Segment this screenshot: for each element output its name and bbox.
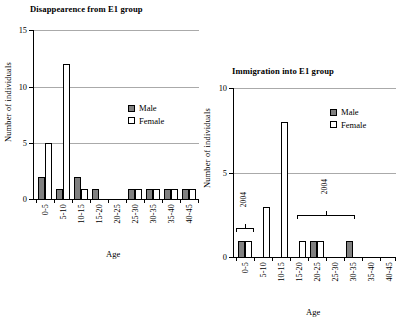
x-tick-label-40-45: 40-45 <box>185 204 194 224</box>
x-tick-label-20-25: 20-25 <box>113 204 122 224</box>
annotation-label-2: 2004 <box>320 179 329 194</box>
bar-female-10-15 <box>81 189 88 200</box>
x-tick-label-5-10: 5-10 <box>259 262 268 277</box>
legend-right: Male Female <box>330 108 366 133</box>
annotation-label-1: 2004 <box>239 192 248 207</box>
bar-female-20-25 <box>317 241 324 258</box>
bar-male-35-40 <box>164 189 171 200</box>
x-tick-8 <box>180 200 181 203</box>
legend-item-male: Male <box>128 104 164 113</box>
x-tick-5 <box>126 200 127 203</box>
legend-item-female: Female <box>128 117 164 126</box>
bar-male-30-35 <box>346 241 353 258</box>
legend-item-female: Female <box>330 121 366 130</box>
x-tick-label-40-45: 40-45 <box>385 262 394 282</box>
y-tick-label-5: 5 <box>11 139 27 148</box>
x-tick-label-15-20: 15-20 <box>95 204 104 224</box>
x-tick-4 <box>108 200 109 203</box>
bar-male-20-25 <box>310 241 317 258</box>
x-tick-6 <box>344 258 345 261</box>
legend-label-female: Female <box>341 121 366 130</box>
x-tick-3 <box>290 258 291 261</box>
y-tick-label-0: 0 <box>11 195 27 204</box>
x-tick-4 <box>308 258 309 261</box>
x-tick-label-0-5: 0-5 <box>241 262 250 273</box>
legend-label-male: Male <box>341 108 359 117</box>
gridline-5 <box>33 143 199 144</box>
bar-male-5-10 <box>56 189 63 200</box>
y-tick-5 <box>229 173 233 174</box>
gridline-15 <box>33 30 199 31</box>
bar-female-25-30 <box>135 189 142 200</box>
gridline-10 <box>33 87 199 88</box>
y-tick-5 <box>29 143 33 144</box>
x-tick-0 <box>36 200 37 203</box>
x-tick-1 <box>54 200 55 203</box>
bar-male-0-5 <box>238 241 245 258</box>
y-tick-15 <box>29 30 33 31</box>
y-tick-10 <box>229 88 233 89</box>
x-tick-6 <box>144 200 145 203</box>
x-tick-9 <box>395 258 396 261</box>
x-tick-3 <box>90 200 91 203</box>
x-tick-2 <box>72 200 73 203</box>
x-tick-label-10-15: 10-15 <box>277 262 286 282</box>
bar-male-10-15 <box>74 177 81 200</box>
bar-male-15-20 <box>92 189 99 200</box>
y-tick-10 <box>29 87 33 88</box>
x-tick-label-30-35: 30-35 <box>349 262 358 282</box>
y-tick-label-5: 5 <box>211 169 227 178</box>
x-tick-label-5-10: 5-10 <box>59 204 68 219</box>
chart-title-left: Disappearence from E1 group <box>30 4 143 14</box>
y-tick-0 <box>29 199 33 200</box>
y-tick-label-0: 0 <box>211 253 227 262</box>
y-axis-right <box>233 88 234 258</box>
bar-female-35-40 <box>171 189 178 200</box>
legend-swatch-female-icon <box>128 117 135 124</box>
legend-item-male: Male <box>330 108 366 117</box>
x-axis-label-right: Age <box>306 307 320 317</box>
bar-male-0-5 <box>38 177 45 200</box>
legend-swatch-male-icon <box>330 109 337 116</box>
bar-female-5-10 <box>263 207 270 258</box>
x-tick-label-25-30: 25-30 <box>131 204 140 224</box>
y-axis-left <box>33 30 34 200</box>
chart-immigration: Immigration into E1 group Number of indi… <box>198 62 403 281</box>
x-tick-label-30-35: 30-35 <box>149 204 158 224</box>
annotation-stem-1 <box>245 224 246 228</box>
gridline-10 <box>233 88 396 89</box>
y-tick-label-15: 15 <box>11 26 27 35</box>
x-tick-8 <box>380 258 381 261</box>
x-tick-7 <box>162 200 163 203</box>
x-tick-label-0-5: 0-5 <box>41 204 50 215</box>
x-tick-label-25-30: 25-30 <box>331 262 340 282</box>
bar-female-40-45 <box>189 189 196 200</box>
bar-female-0-5 <box>45 143 52 200</box>
y-axis-label-left: Number of individuals <box>4 62 13 142</box>
bar-female-5-10 <box>63 64 70 200</box>
x-tick-7 <box>362 258 363 261</box>
bar-female-0-5 <box>245 241 252 258</box>
x-tick-5 <box>326 258 327 261</box>
annotation-bracket-2 <box>297 215 355 219</box>
y-tick-label-10: 10 <box>211 84 227 93</box>
legend-swatch-male-icon <box>128 105 135 112</box>
x-tick-0 <box>236 258 237 261</box>
bar-female-15-20 <box>299 241 306 258</box>
legend-label-female: Female <box>139 117 164 126</box>
bar-male-30-35 <box>146 189 153 200</box>
y-tick-0 <box>229 257 233 258</box>
x-tick-label-10-15: 10-15 <box>77 204 86 224</box>
x-axis-label-left: Age <box>106 249 120 259</box>
x-tick-label-35-40: 35-40 <box>167 204 176 224</box>
x-tick-label-35-40: 35-40 <box>367 262 376 282</box>
bar-male-40-45 <box>182 189 189 200</box>
legend-left: Male Female <box>128 104 164 129</box>
plot-area-left: 15 10 5 0 <box>33 30 199 200</box>
annotation-bracket-1 <box>236 228 254 232</box>
x-tick-2 <box>272 258 273 261</box>
legend-swatch-female-icon <box>330 121 337 128</box>
x-tick-label-15-20: 15-20 <box>295 262 304 282</box>
plot-area-right: 10 5 0 2004 2004 <box>233 88 396 258</box>
bar-female-10-15 <box>281 122 288 258</box>
